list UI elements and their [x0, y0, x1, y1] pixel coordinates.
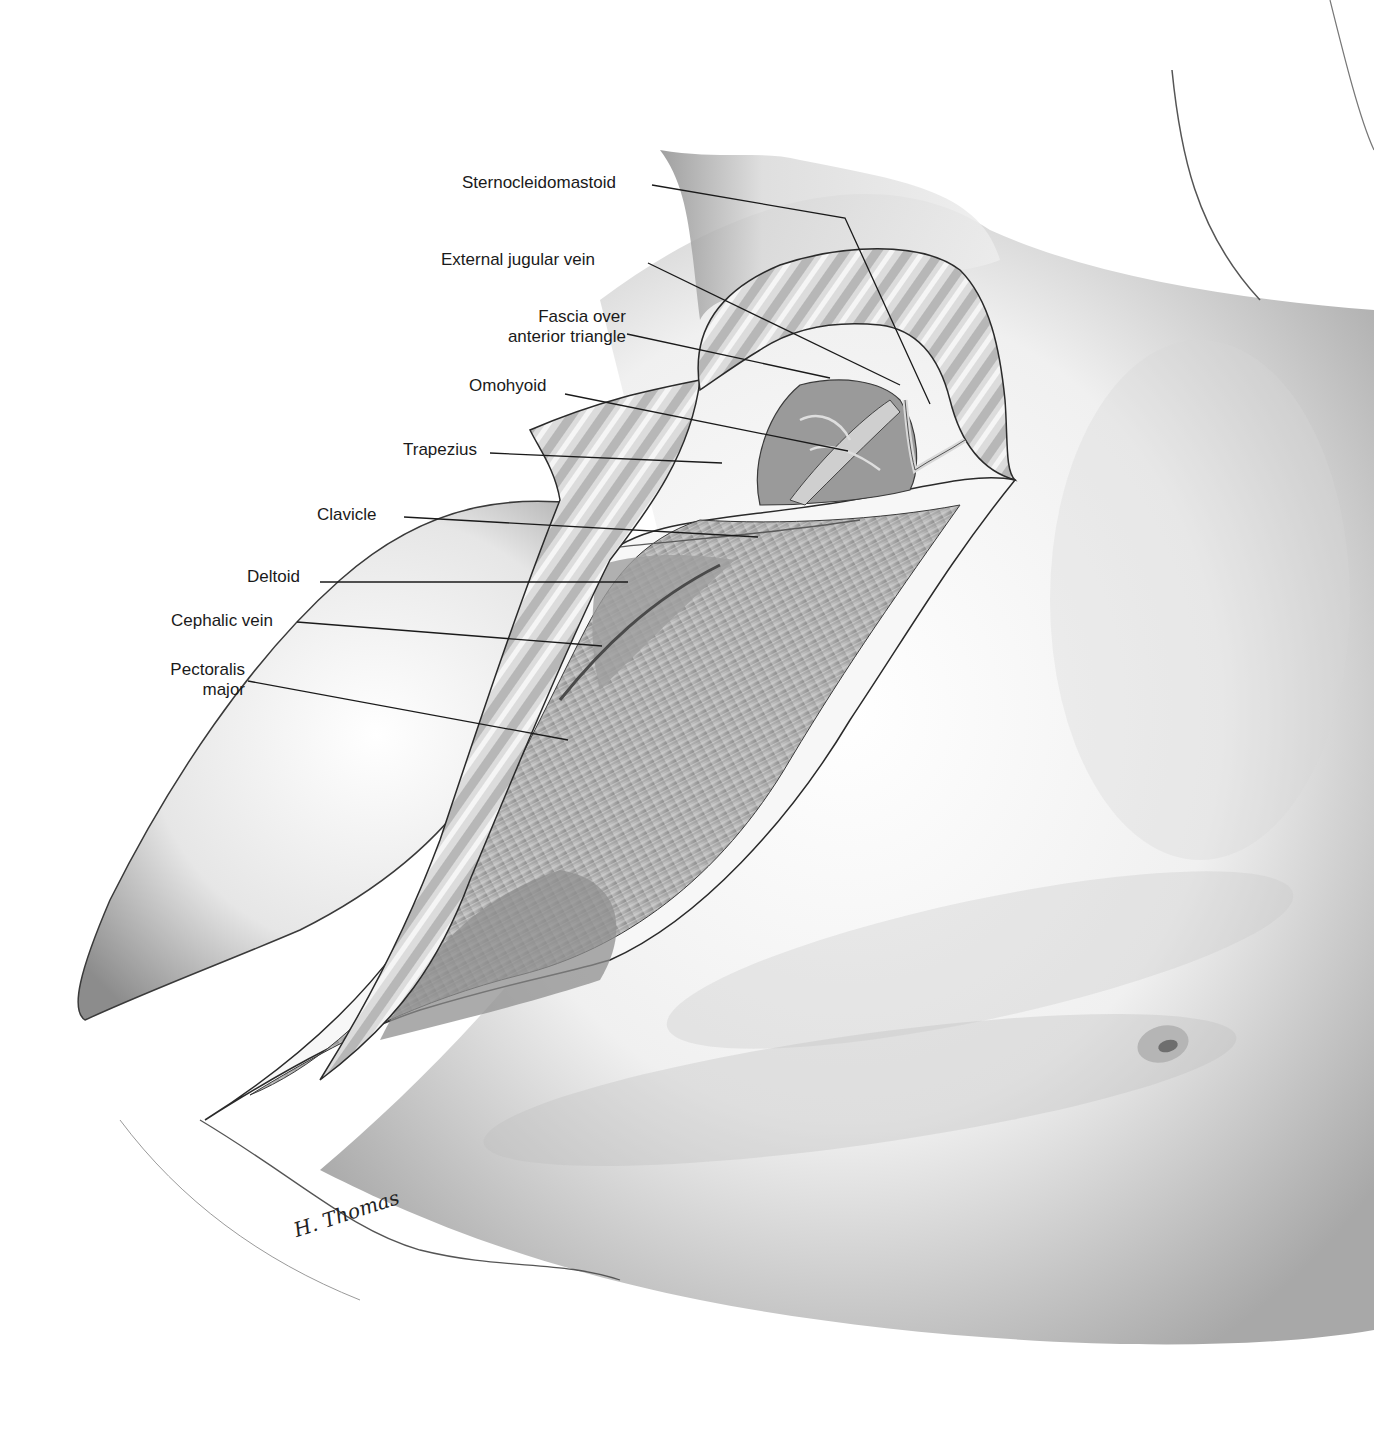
label-omohyoid: Omohyoid [469, 376, 546, 396]
anatomical-illustration [0, 0, 1374, 1449]
label-clavicle: Clavicle [317, 505, 377, 525]
label-trapezius: Trapezius [403, 440, 477, 460]
label-deltoid: Deltoid [247, 567, 300, 587]
label-pectoralis-major: Pectoralis major [155, 660, 245, 700]
label-sternocleidomastoid: Sternocleidomastoid [462, 173, 616, 193]
label-cephalic-vein: Cephalic vein [171, 611, 273, 631]
label-external-jugular-vein: External jugular vein [441, 250, 595, 270]
label-fascia-over-anterior-triangle: Fascia over anterior triangle [480, 307, 626, 347]
